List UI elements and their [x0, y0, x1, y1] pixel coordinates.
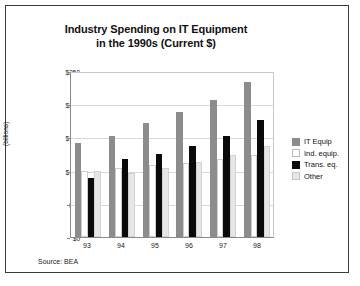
- y-axis-tick-mark: [67, 238, 70, 239]
- legend-label: Ind. equip.: [304, 149, 339, 158]
- legend-label: IT Equip: [304, 137, 332, 146]
- legend-swatch-icon: [292, 172, 300, 180]
- plot-area: [70, 72, 274, 238]
- legend-swatch-icon: [292, 149, 300, 157]
- y-axis-label: (billions): [2, 122, 9, 146]
- bar: [230, 155, 237, 237]
- chart-frame: Industry Spending on IT Equipment in the…: [5, 5, 349, 273]
- legend-label: Trans. eq.: [304, 160, 338, 169]
- bar-group: [240, 72, 274, 237]
- bar: [196, 162, 203, 237]
- x-axis-tick-label: 96: [172, 242, 206, 254]
- bar-group: [139, 72, 173, 237]
- legend-label: Other: [304, 172, 323, 181]
- legend-item: Trans. eq.: [292, 160, 339, 169]
- legend-item: Ind. equip.: [292, 149, 339, 158]
- bar-group: [105, 72, 139, 237]
- x-axis-tick-label: 95: [138, 242, 172, 254]
- legend-swatch-icon: [292, 161, 300, 169]
- bar-group: [71, 72, 105, 237]
- bar-group: [206, 72, 240, 237]
- chart-title: Industry Spending on IT Equipment in the…: [6, 22, 306, 50]
- bar: [264, 146, 271, 237]
- legend-swatch-icon: [292, 138, 300, 146]
- bar-groups: [71, 72, 274, 237]
- bar-group: [172, 72, 206, 237]
- bar: [94, 171, 101, 237]
- bar: [162, 168, 169, 237]
- chart-title-line-2: in the 1990s (Current $): [6, 36, 306, 50]
- chart-title-line-1: Industry Spending on IT Equipment: [6, 22, 306, 36]
- bar: [128, 173, 135, 237]
- legend-item: IT Equip: [292, 137, 339, 146]
- chart-legend: IT EquipInd. equip.Trans. eq.Other: [292, 137, 339, 181]
- x-axis-tick-label: 94: [104, 242, 138, 254]
- x-axis-tick-label: 97: [206, 242, 240, 254]
- x-axis-tick-labels: 939495969798: [70, 242, 274, 254]
- source-note: Source: BEA: [38, 258, 78, 265]
- legend-item: Other: [292, 172, 339, 181]
- x-axis-tick-label: 93: [70, 242, 104, 254]
- x-axis-tick-label: 98: [240, 242, 274, 254]
